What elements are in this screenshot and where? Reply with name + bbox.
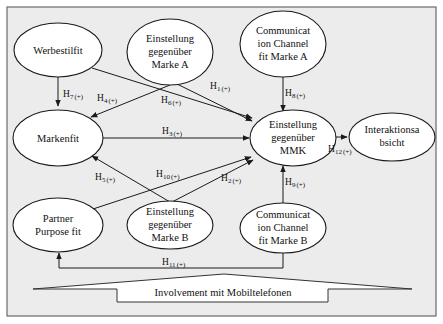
node-label-line: Marke B: [151, 232, 188, 243]
node-einstellung-marke-a: Einstellung gegenüber Marke A: [127, 19, 213, 85]
node-label-line: Marke A: [151, 59, 188, 70]
node-label-line: Communicat: [256, 209, 310, 220]
structural-model-diagram: Werbestilfit Einstellung gegenüber Marke…: [0, 0, 443, 324]
node-label-line: ion Channel: [257, 222, 308, 233]
node-cc-fit-marke-b: Communicat ion Channel fit Marke B: [240, 203, 326, 253]
node-label-line: Einstellung: [146, 33, 195, 44]
node-label-line: MMK: [280, 145, 307, 156]
node-markenfit: Markenfit: [13, 110, 103, 166]
node-label-line: Purpose fit: [35, 226, 81, 237]
node-label-line: Interaktionsa: [365, 124, 420, 135]
moderator-label: Involvement mit Mobiltelefonen: [154, 287, 292, 298]
node-markenfit-label: Markenfit: [37, 133, 79, 144]
node-label-line: fit Marke A: [259, 51, 308, 62]
node-label-line: fit Marke B: [259, 235, 308, 246]
node-einstellung-marke-b: Einstellung gegenüber Marke B: [127, 201, 213, 249]
node-label-line: Einstellung: [269, 119, 318, 130]
node-label-line: Partner: [43, 213, 74, 224]
node-partner-purpose-fit: Partner Purpose fit: [13, 198, 103, 252]
node-werbestilfit-label: Werbestilfit: [33, 45, 82, 56]
node-label-line: gegenüber: [148, 219, 192, 230]
node-label-line: Einstellung: [146, 206, 195, 217]
node-interaktionsabsicht: Interaktionsa bsicht: [349, 113, 435, 161]
node-einstellung-mmk: Einstellung gegenüber MMK: [250, 110, 336, 166]
node-cc-fit-marke-a: Communicat ion Channel fit Marke A: [240, 11, 326, 77]
node-werbestilfit: Werbestilfit: [14, 23, 102, 77]
node-label-line: ion Channel: [257, 38, 308, 49]
node-label-line: gegenüber: [148, 46, 192, 57]
node-label-line: bsicht: [379, 137, 404, 148]
node-label-line: gegenüber: [271, 132, 315, 143]
node-label-line: Communicat: [256, 25, 310, 36]
